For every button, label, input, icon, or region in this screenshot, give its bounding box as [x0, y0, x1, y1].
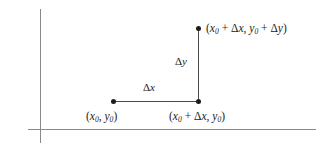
plus-sign-2: +	[258, 22, 270, 34]
delta-y-segment	[198, 28, 199, 101]
y-variable: y	[182, 55, 187, 67]
y-subscript: 0	[110, 115, 114, 124]
paren-close: )	[113, 110, 117, 122]
point-top-label: (x0 + Δx, y0 + Δy)	[206, 23, 287, 35]
paren-close: )	[221, 110, 225, 122]
y-subscript: 0	[217, 115, 221, 124]
y-subscript: 0	[254, 27, 258, 36]
vertical-axis	[40, 9, 41, 143]
x-subscript: 0	[215, 27, 219, 36]
plus-sign: +	[219, 22, 231, 34]
delta-y-label: Δy	[175, 56, 187, 67]
x-subscript: 0	[95, 115, 99, 124]
plus-sign: +	[182, 110, 194, 122]
x-variable: x	[150, 81, 155, 93]
point-corner	[196, 99, 201, 104]
point-top	[196, 26, 201, 31]
point-origin-label: (x0, y0)	[86, 111, 117, 123]
delta-x-segment	[113, 101, 198, 102]
point-origin	[111, 99, 116, 104]
y-variable: y	[105, 110, 110, 122]
delta-symbol-2: Δ	[270, 22, 277, 34]
point-corner-label: (x0 + Δx, y0)	[169, 111, 225, 123]
delta-x-label: Δx	[143, 82, 155, 93]
paren-close: )	[283, 22, 287, 34]
x-subscript: 0	[178, 115, 182, 124]
horizontal-axis	[28, 129, 316, 130]
increment-diagram: (x0 + Δx, y0 + Δy) (x0, y0) (x0 + Δx, y0…	[0, 0, 323, 151]
